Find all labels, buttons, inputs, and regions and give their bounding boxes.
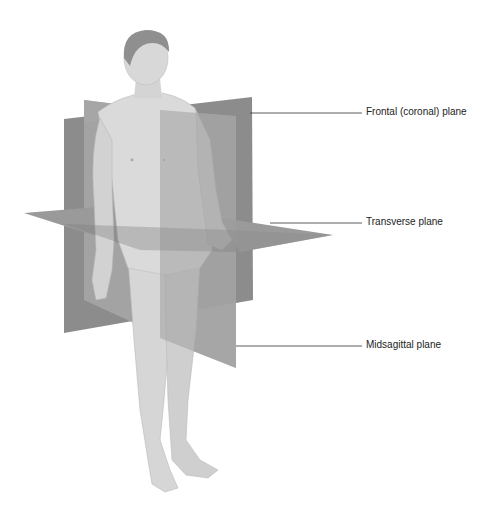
midsagittal-plane-label: Midsagittal plane [366, 339, 441, 350]
transverse-plane-label: Transverse plane [366, 216, 443, 227]
frontal-plane-label: Frontal (coronal) plane [366, 106, 467, 117]
anatomical-planes-diagram: Frontal (coronal) plane Transverse plane… [0, 0, 490, 506]
diagram-canvas [0, 0, 490, 506]
